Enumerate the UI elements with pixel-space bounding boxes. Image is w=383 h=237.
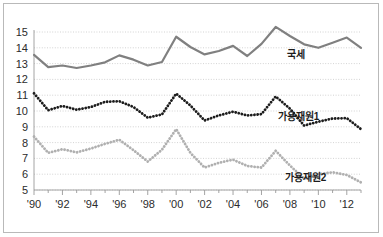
series-label-1: 국세: [287, 48, 305, 60]
y-axis-tick-labels: 56789101112131415: [16, 26, 28, 196]
series-labels: 국세가용재원1가용재원2: [278, 48, 327, 183]
x-tick-label: '00: [169, 198, 183, 210]
y-tick-label: 7: [22, 152, 28, 164]
y-tick-label: 12: [16, 73, 28, 85]
x-tick-label: '90: [27, 198, 41, 210]
axes: [34, 30, 361, 190]
y-tick-label: 6: [22, 168, 28, 180]
x-tick-label: '98: [141, 198, 155, 210]
series-group: [34, 27, 361, 182]
series-line-1: [34, 27, 361, 68]
x-tick-label: '12: [340, 198, 354, 210]
y-tick-label: 11: [17, 89, 28, 101]
y-tick-label: 10: [16, 105, 28, 117]
x-tick-label: '02: [197, 198, 211, 210]
series-label-3: 가용재원2: [285, 171, 327, 183]
x-tick-label: '96: [112, 198, 126, 210]
x-axis-ticks: [34, 190, 361, 195]
y-tick-label: 14: [16, 42, 28, 54]
x-axis-tick-labels: '90'92'94'96'98'00'02'04'06'08'10'12: [27, 198, 354, 210]
series-label-2: 가용재원1: [278, 110, 320, 122]
line-chart-canvas: 56789101112131415'90'92'94'96'98'00'02'0…: [0, 0, 383, 237]
chart-figure: 56789101112131415'90'92'94'96'98'00'02'0…: [0, 0, 383, 237]
x-tick-label: '92: [55, 198, 69, 210]
y-tick-label: 13: [16, 58, 28, 70]
x-tick-label: '08: [283, 198, 297, 210]
x-tick-label: '10: [311, 198, 325, 210]
x-tick-label: '94: [84, 198, 98, 210]
y-tick-label: 9: [22, 121, 28, 133]
y-tick-label: 5: [22, 184, 28, 196]
x-tick-label: '06: [254, 198, 268, 210]
x-tick-label: '04: [226, 198, 240, 210]
y-tick-label: 15: [16, 26, 28, 38]
y-tick-label: 8: [22, 137, 28, 149]
